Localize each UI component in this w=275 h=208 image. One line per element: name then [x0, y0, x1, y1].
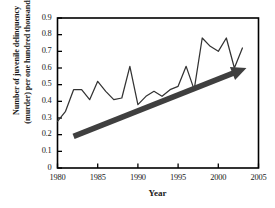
x-tick-label: 1985	[81, 173, 115, 182]
x-axis-label: Year	[57, 188, 258, 198]
axis-frame	[58, 18, 259, 168]
x-tick-label: 2005	[242, 173, 275, 182]
x-tick-label: 1980	[41, 173, 75, 182]
y-tick-label: 0.3	[30, 113, 52, 122]
y-tick-label: 0.8	[30, 29, 52, 38]
trend-arrow	[74, 67, 247, 136]
y-tick-label: 0.1	[30, 146, 52, 155]
y-tick-label: 0.5	[30, 79, 52, 88]
x-tick-label: 2000	[201, 173, 235, 182]
x-tick-label: 1990	[121, 173, 155, 182]
axis-ticks	[58, 18, 259, 168]
x-tick-label: 1995	[161, 173, 195, 182]
y-tick-label: 0.7	[30, 46, 52, 55]
y-tick-label: 0.2	[30, 129, 52, 138]
y-tick-label: 0.9	[30, 13, 52, 22]
y-tick-label: 0	[30, 163, 52, 172]
chart-figure: Number of juvenile delinquency (murder) …	[0, 0, 274, 208]
y-tick-label: 0.6	[30, 63, 52, 72]
y-tick-label: 0.4	[30, 96, 52, 105]
